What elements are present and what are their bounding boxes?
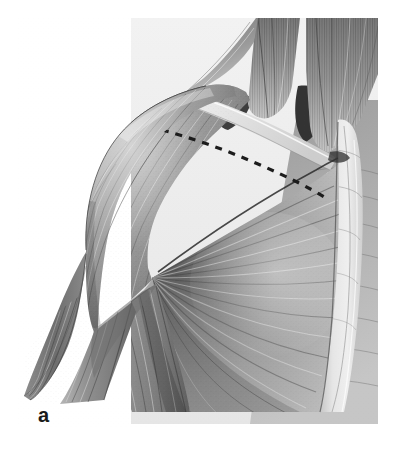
paper-grain	[18, 18, 378, 428]
panel-label-a: a	[38, 405, 49, 425]
anatomy-illustration	[0, 0, 402, 453]
figure-root: a	[0, 0, 402, 453]
